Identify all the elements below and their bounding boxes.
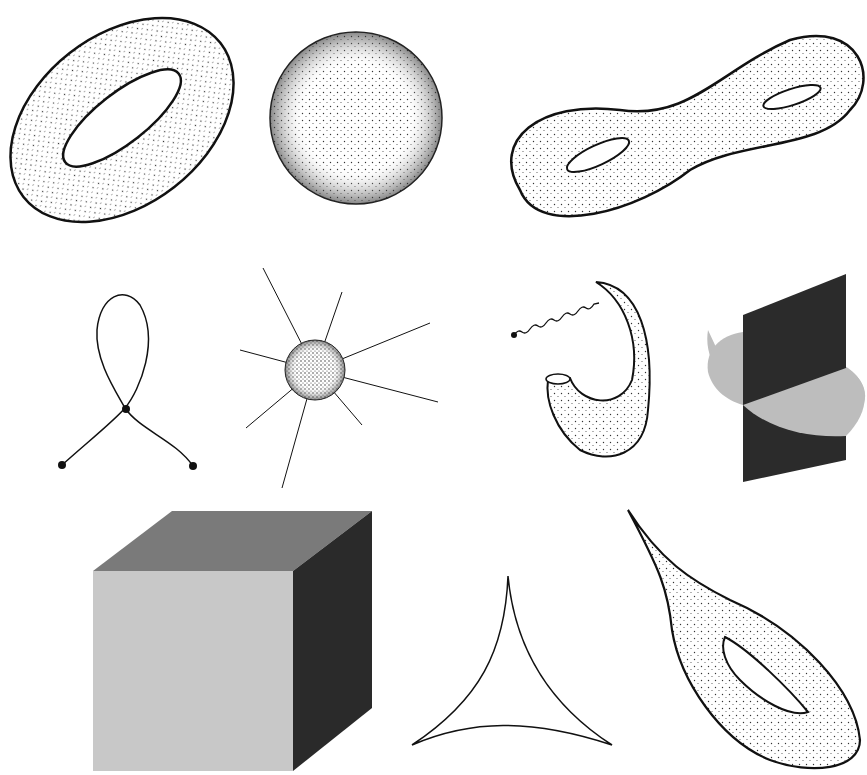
- horn-with-wiggle: [511, 282, 650, 457]
- topology-figure: [0, 0, 867, 775]
- cube-shape: [93, 511, 372, 771]
- intersecting-planes: [707, 274, 865, 482]
- pinched-torus: [628, 510, 860, 768]
- figure-eight-curve: [58, 295, 197, 470]
- torus-shape: [0, 0, 273, 264]
- double-torus-shape: [511, 36, 863, 216]
- sphere-shape: [270, 32, 442, 204]
- deltoid-curve: [412, 576, 612, 745]
- spiky-ball: [240, 268, 438, 488]
